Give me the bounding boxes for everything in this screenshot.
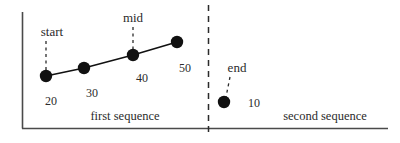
data-point-marker-40[interactable] [127, 49, 139, 61]
panel-caption-first-sequence: first sequence [90, 110, 159, 123]
panel-caption-second-sequence: second sequence [283, 110, 367, 123]
data-point-marker-10[interactable] [218, 96, 230, 108]
data-point-marker-20[interactable] [40, 70, 52, 82]
data-point-marker-30[interactable] [78, 62, 90, 74]
first-sequence-connector-line [46, 42, 177, 76]
value-label-50: 50 [179, 62, 191, 74]
annotation-label-mid: mid [123, 11, 143, 24]
end-leader-line [226, 77, 230, 97]
data-point-marker-50[interactable] [171, 36, 183, 48]
sequence-diagram: start mid end 20 30 40 50 10 first seque… [0, 0, 400, 143]
value-label-30: 30 [86, 87, 98, 99]
annotation-label-start: start [41, 25, 63, 38]
value-label-20: 20 [45, 95, 57, 107]
value-label-10: 10 [248, 97, 260, 109]
annotation-label-end: end [228, 61, 247, 74]
value-label-40: 40 [136, 72, 148, 84]
